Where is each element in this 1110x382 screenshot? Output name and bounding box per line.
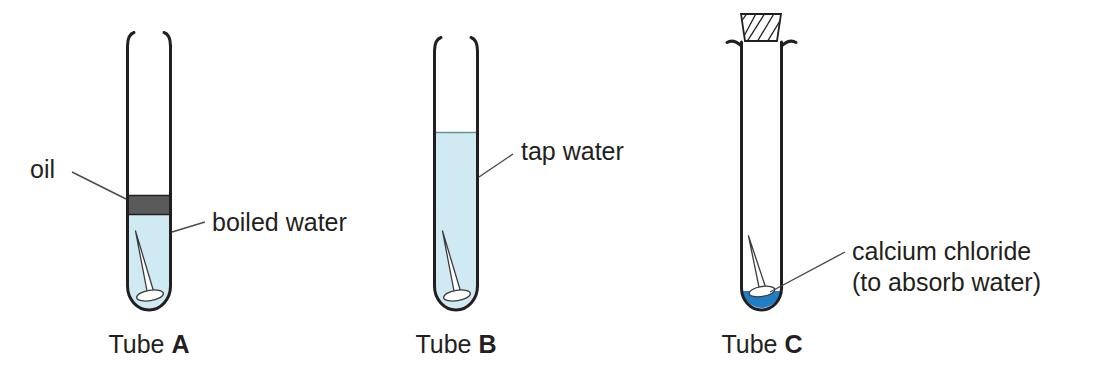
caption-tube-c-prefix: Tube: [721, 330, 784, 358]
caption-tube-c-letter: C: [784, 330, 802, 358]
label-tap-water: tap water: [521, 137, 624, 165]
caption-tube-a-prefix: Tube: [108, 330, 171, 358]
rusting-experiment-diagram: oil boiled water Tube A tap water Tube B: [0, 0, 1110, 382]
caption-tube-b: Tube B: [415, 330, 496, 358]
label-calcium-chloride-note: (to absorb water): [852, 268, 1041, 296]
caption-tube-c: Tube C: [721, 330, 802, 358]
caption-tube-b-prefix: Tube: [415, 330, 478, 358]
caption-tube-a: Tube A: [108, 330, 189, 358]
tube-a-oil-band: [125, 195, 173, 215]
caption-tube-a-letter: A: [171, 330, 189, 358]
diagram-background: [0, 0, 1110, 382]
label-oil: oil: [30, 155, 55, 183]
label-boiled-water: boiled water: [212, 208, 347, 236]
caption-tube-b-letter: B: [478, 330, 496, 358]
label-calcium-chloride: calcium chloride: [852, 237, 1031, 265]
